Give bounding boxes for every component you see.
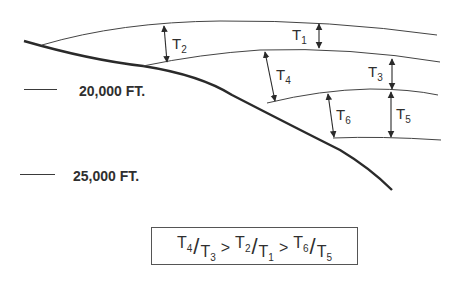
label-t2: T2 xyxy=(172,36,187,55)
formula-box: T4 / T3 > T2 / T1 > T6 / T5 xyxy=(151,227,358,265)
arrow-t6 xyxy=(328,94,334,137)
label-t5: T5 xyxy=(396,106,411,125)
depth-label-25000: 25,000 FT. xyxy=(73,168,139,184)
horizon-4 xyxy=(333,137,441,140)
depth-label-20000: 20,000 FT. xyxy=(79,83,145,99)
horizon-3 xyxy=(267,89,438,103)
arrow-t4 xyxy=(265,52,275,101)
depth-tick-25000 xyxy=(20,174,55,175)
arrow-t2 xyxy=(164,26,167,62)
ratio-t2-t1: T2 / T1 xyxy=(235,233,274,259)
greater-than: > xyxy=(221,239,230,257)
greater-than: > xyxy=(279,239,288,257)
label-t6: T6 xyxy=(336,107,351,126)
ratio-t4-t3: T4 / T3 xyxy=(177,233,216,259)
depth-tick-20000 xyxy=(24,89,57,90)
ratio-t6-t5: T6 / T5 xyxy=(293,233,332,259)
label-t3: T3 xyxy=(368,64,383,83)
label-t1: T1 xyxy=(292,27,307,46)
label-t4: T4 xyxy=(276,67,291,86)
horizon-2 xyxy=(143,50,440,67)
horizon-1 xyxy=(42,21,437,45)
